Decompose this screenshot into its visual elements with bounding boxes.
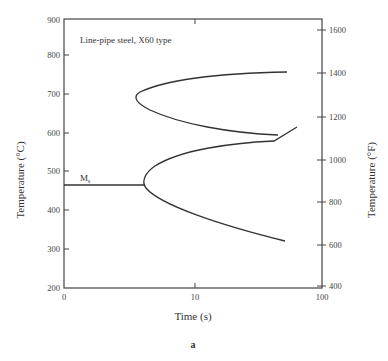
svg-text:600: 600 [47, 128, 60, 138]
steel-type-annotation: Line-pipe steel, X60 type [80, 35, 171, 45]
lower-c-curve [144, 127, 297, 241]
svg-text:400: 400 [329, 281, 342, 291]
panel-label: a [191, 339, 196, 350]
svg-text:10: 10 [191, 292, 200, 302]
svg-text:1000: 1000 [329, 155, 346, 165]
svg-text:600: 600 [329, 240, 342, 250]
x-axis-title: Time (s) [174, 310, 212, 323]
x-tick-labels: 0 10 100 [62, 292, 329, 302]
ms-label: Ms [80, 173, 91, 184]
svg-text:1200: 1200 [329, 112, 346, 122]
svg-text:100: 100 [316, 292, 329, 302]
right-y-tick-labels: 1600 1400 1200 1000 800 600 400 [329, 25, 346, 291]
plot-frame [64, 19, 322, 288]
svg-text:500: 500 [47, 166, 60, 176]
chart-svg: 900 800 700 600 500 400 300 200 1600 140… [0, 0, 388, 361]
svg-text:800: 800 [47, 50, 60, 60]
svg-text:0: 0 [62, 292, 66, 302]
svg-text:1600: 1600 [329, 25, 346, 35]
svg-text:800: 800 [329, 197, 342, 207]
svg-text:400: 400 [47, 205, 60, 215]
svg-text:900: 900 [47, 15, 60, 25]
svg-text:200: 200 [47, 283, 60, 293]
svg-text:1400: 1400 [329, 68, 346, 78]
left-y-ticks [64, 55, 69, 249]
left-y-tick-labels: 900 800 700 600 500 400 300 200 [47, 15, 60, 293]
curves [64, 72, 297, 241]
y2-axis-title: Temperature (°F) [365, 142, 378, 218]
svg-text:700: 700 [47, 89, 60, 99]
y-axis-title: Temperature (°C) [14, 141, 27, 219]
upper-c-curve [136, 72, 287, 135]
svg-text:300: 300 [47, 244, 60, 254]
